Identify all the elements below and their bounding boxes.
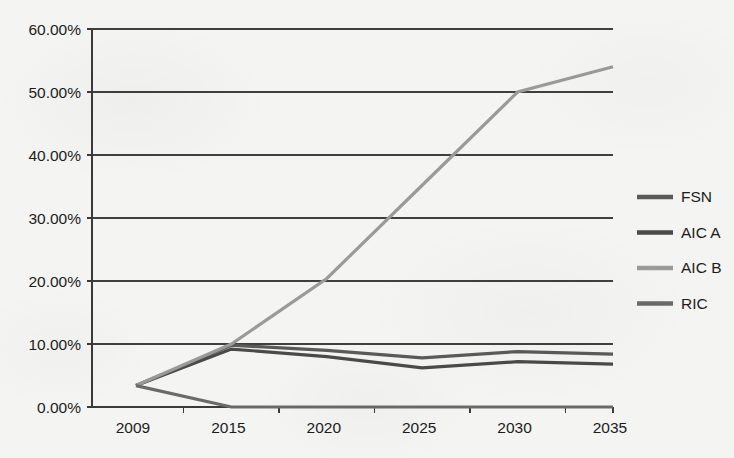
x-axis-tick-label: 2025: [402, 419, 436, 436]
series-line-ric: [136, 386, 613, 407]
y-axis-tick-label: 40.00%: [28, 147, 81, 164]
x-axis-tick-label: 2035: [593, 419, 627, 436]
y-axis-tick-label: 60.00%: [28, 21, 81, 38]
x-axis-tick-label: 2020: [307, 419, 342, 436]
series-line-aic-b: [136, 67, 613, 386]
legend-label-fsn[interactable]: FSN: [681, 188, 712, 205]
chart-canvas: 0.00%10.00%20.00%30.00%40.00%50.00%60.00…: [0, 0, 734, 458]
x-axis-tick-labels: 200920152020202520302035: [116, 419, 627, 436]
y-axis-tick-labels: 0.00%10.00%20.00%30.00%40.00%50.00%60.00…: [28, 21, 81, 416]
series-line-fsn: [136, 345, 613, 385]
line-chart: 0.00%10.00%20.00%30.00%40.00%50.00%60.00…: [0, 0, 734, 458]
y-axis-tick-label: 20.00%: [28, 273, 81, 290]
y-axis-tick-label: 0.00%: [37, 399, 81, 416]
gridlines: [92, 29, 613, 344]
legend-label-aic-a[interactable]: AIC A: [681, 224, 721, 241]
data-series: [136, 67, 613, 407]
x-axis-tick-label: 2009: [116, 419, 150, 436]
y-axis-tick-label: 50.00%: [28, 84, 81, 101]
chart-legend: FSNAIC AAIC BRIC: [637, 188, 721, 312]
y-axis-tick-label: 10.00%: [28, 336, 81, 353]
legend-label-aic-b[interactable]: AIC B: [681, 259, 721, 276]
legend-label-ric[interactable]: RIC: [681, 295, 708, 312]
x-axis-tick-label: 2015: [211, 419, 245, 436]
x-axis-tick-label: 2030: [497, 419, 532, 436]
y-axis-tick-label: 30.00%: [28, 210, 81, 227]
